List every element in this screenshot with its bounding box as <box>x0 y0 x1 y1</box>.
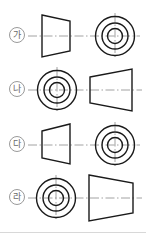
circles-front-view-da <box>96 122 135 168</box>
bottom-divider <box>0 232 146 233</box>
choice-label-da[interactable]: 다 <box>9 136 25 152</box>
choice-ga-views <box>26 8 142 63</box>
choice-na-views <box>26 62 144 117</box>
circles-front-view-ga <box>96 13 135 59</box>
frustum-side-view-da <box>42 124 70 164</box>
choice-label-na[interactable]: 나 <box>9 81 25 97</box>
answer-choices-sheet: 가 나 <box>0 0 146 236</box>
choice-da-views <box>26 117 142 172</box>
circles-front-view-na <box>38 67 77 113</box>
choice-row-ra[interactable]: 라 <box>0 169 146 227</box>
choice-label-ra[interactable]: 라 <box>9 189 25 205</box>
choice-ra-views <box>26 169 144 227</box>
choice-row-da[interactable]: 다 <box>0 117 146 172</box>
choice-row-ga[interactable]: 가 <box>0 8 146 63</box>
choice-label-ga[interactable]: 가 <box>9 27 25 43</box>
choice-row-na[interactable]: 나 <box>0 62 146 117</box>
circles-front-view-ra <box>37 175 76 221</box>
